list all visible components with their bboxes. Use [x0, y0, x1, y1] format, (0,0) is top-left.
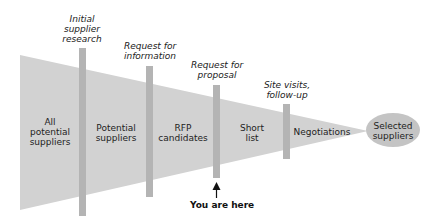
milestone-bar-site-visits: [283, 104, 290, 159]
endpoint-label-selected-suppliers: Selected suppliers: [366, 121, 420, 141]
milestone-bar-rfp: [213, 85, 220, 178]
you-are-here-label: You are here: [190, 200, 254, 210]
up-arrow-icon: [213, 182, 221, 198]
stage-label-negotiations: Negotiations: [291, 127, 353, 137]
milestone-bar-rfi: [146, 66, 153, 197]
stage-label-rfp-candidates: RFP candidates: [155, 123, 211, 143]
stage-label-potential-suppliers: Potential suppliers: [88, 123, 144, 143]
stage-label-short-list: Short list: [224, 123, 280, 143]
milestone-label-rfi: Request for information: [115, 41, 185, 61]
milestone-label-rfp: Request for proposal: [182, 60, 252, 80]
milestone-label-site-visits: Site visits, follow-up: [252, 80, 322, 100]
supplier-selection-funnel-diagram: Initial supplier research Request for in…: [0, 0, 440, 224]
stage-label-all-potential: All potential suppliers: [22, 117, 78, 147]
milestone-label-initial-research: Initial supplier research: [52, 14, 112, 44]
milestone-bar-initial-research: [79, 48, 86, 216]
